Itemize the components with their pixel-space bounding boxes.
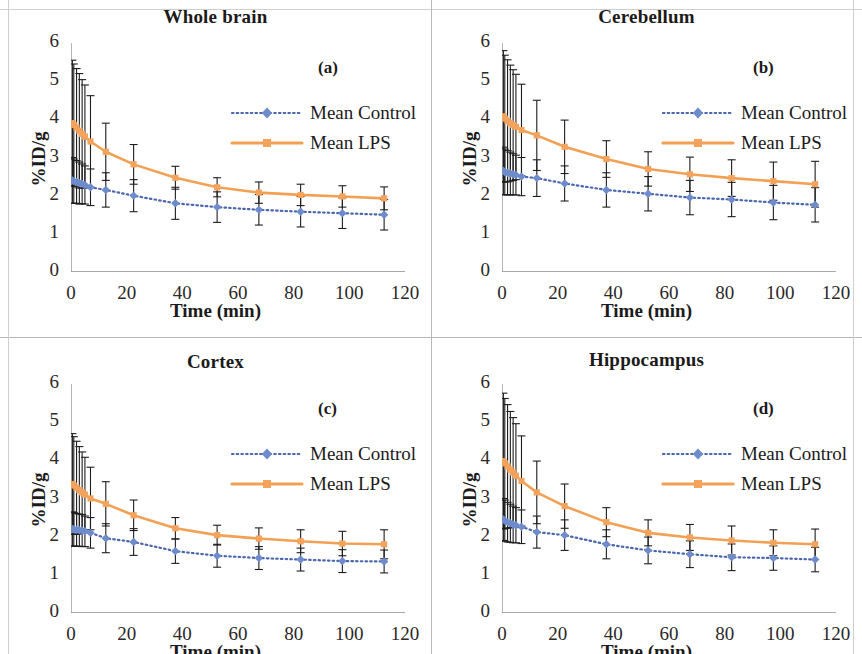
- legend-label: Mean LPS: [741, 473, 822, 495]
- y-tick-label: 0: [444, 600, 490, 622]
- y-tick-label: 4: [444, 447, 490, 469]
- y-tick-label: 5: [444, 68, 490, 90]
- y-tick-label: 0: [13, 259, 59, 281]
- y-tick-label: 0: [13, 600, 59, 622]
- y-tick-label: 2: [444, 524, 490, 546]
- x-axis-title: Time (min): [0, 300, 431, 322]
- figure-panel-grid: Whole brain (a) %ID/g 654321002040608010…: [0, 0, 862, 654]
- legend-label: Mean Control: [310, 443, 416, 465]
- control-series-key-icon: [661, 445, 735, 463]
- y-tick-label: 3: [444, 145, 490, 167]
- lps-legend-entry[interactable]: Mean LPS: [661, 128, 847, 158]
- legend: Mean ControlMean LPS: [661, 439, 847, 499]
- lps-legend-entry[interactable]: Mean LPS: [230, 128, 416, 158]
- legend-label: Mean Control: [741, 102, 847, 124]
- x-axis-title: Time (min): [431, 641, 862, 654]
- panel-title: Cortex: [0, 351, 431, 373]
- panel-hippocampus: Hippocampus (d) %ID/g 654321002040608010…: [431, 337, 862, 654]
- y-tick-label: 3: [13, 486, 59, 508]
- x-axis-title: Time (min): [431, 300, 862, 322]
- y-tick-label: 5: [444, 409, 490, 431]
- lps-series-key-icon: [661, 475, 735, 493]
- lps-legend-entry[interactable]: Mean LPS: [661, 469, 847, 499]
- control-legend-entry[interactable]: Mean Control: [230, 439, 416, 469]
- panel-cerebellum: Cerebellum (b) %ID/g 6543210020406080100…: [431, 0, 862, 337]
- legend: Mean ControlMean LPS: [230, 98, 416, 158]
- legend-label: Mean LPS: [310, 132, 391, 154]
- legend: Mean ControlMean LPS: [661, 98, 847, 158]
- y-tick-label: 3: [13, 145, 59, 167]
- legend-label: Mean Control: [310, 102, 416, 124]
- y-tick-label: 6: [13, 30, 59, 52]
- legend: Mean ControlMean LPS: [230, 439, 416, 499]
- y-tick-label: 1: [13, 221, 59, 243]
- y-tick-label: 4: [13, 106, 59, 128]
- control-series-key-icon: [230, 104, 304, 122]
- panel-cortex: Cortex (c) %ID/g 6543210020406080100120 …: [0, 337, 431, 654]
- y-tick-label: 5: [13, 409, 59, 431]
- y-tick-label: 2: [444, 183, 490, 205]
- legend-label: Mean LPS: [741, 132, 822, 154]
- control-legend-entry[interactable]: Mean Control: [230, 98, 416, 128]
- y-tick-label: 3: [444, 486, 490, 508]
- lps-series-key-icon: [230, 134, 304, 152]
- y-tick-label: 2: [13, 183, 59, 205]
- control-series-key-icon: [661, 104, 735, 122]
- y-tick-label: 0: [444, 259, 490, 281]
- control-legend-entry[interactable]: Mean Control: [661, 439, 847, 469]
- y-tick-label: 2: [13, 524, 59, 546]
- panel-whole-brain: Whole brain (a) %ID/g 654321002040608010…: [0, 0, 431, 337]
- y-tick-label: 6: [444, 371, 490, 393]
- panel-title: Hippocampus: [431, 349, 862, 371]
- lps-series-key-icon: [230, 475, 304, 493]
- y-tick-label: 4: [13, 447, 59, 469]
- x-axis-title: Time (min): [0, 641, 431, 654]
- y-tick-label: 1: [444, 221, 490, 243]
- panel-title: Whole brain: [0, 6, 431, 28]
- y-tick-label: 4: [444, 106, 490, 128]
- legend-label: Mean LPS: [310, 473, 391, 495]
- y-tick-label: 1: [13, 562, 59, 584]
- y-tick-label: 6: [444, 30, 490, 52]
- panel-title: Cerebellum: [431, 6, 862, 28]
- y-tick-label: 5: [13, 68, 59, 90]
- y-tick-label: 6: [13, 371, 59, 393]
- lps-series-key-icon: [661, 134, 735, 152]
- control-series-key-icon: [230, 445, 304, 463]
- lps-legend-entry[interactable]: Mean LPS: [230, 469, 416, 499]
- y-tick-label: 1: [444, 562, 490, 584]
- control-legend-entry[interactable]: Mean Control: [661, 98, 847, 128]
- legend-label: Mean Control: [741, 443, 847, 465]
